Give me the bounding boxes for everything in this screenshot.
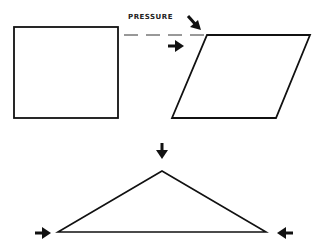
parallelogram (172, 35, 310, 118)
arrow-left-icon (277, 227, 293, 239)
arrow-right-icon (35, 227, 51, 239)
pressure-label: PRESSURE (128, 13, 173, 21)
pressure-deformation-diagram: PRESSURE (0, 0, 320, 249)
arrow-down-icon (156, 143, 168, 159)
triangle (58, 171, 266, 232)
arrow-right-icon (168, 40, 184, 52)
arrow-down-right-icon (188, 16, 201, 30)
square (14, 27, 118, 118)
